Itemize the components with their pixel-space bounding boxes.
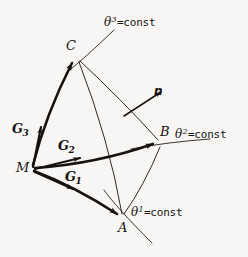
edge-c-to-a [79, 62, 122, 214]
coordinate-label-theta1: θ1=const [131, 206, 182, 218]
vector-label-g1-base: G [65, 169, 76, 184]
vector-label-g2-base: G [58, 138, 69, 153]
coordinate-label-theta3: θ3=const [104, 16, 155, 28]
vector-label-g2-index: 2 [69, 145, 75, 155]
theta3-superscript: 3 [112, 15, 117, 24]
vector-label-g1-index: 1 [76, 176, 82, 186]
theta1-symbol: θ [131, 205, 138, 219]
edge-a-to-b [124, 147, 160, 214]
coordinate-label-theta2: θ2=const [175, 128, 226, 140]
theta1-superscript: 1 [139, 205, 144, 214]
point-label-m: M [16, 161, 29, 174]
vector-label-g1: G1 [65, 170, 82, 186]
theta3-equals-const: =const [117, 16, 156, 29]
edge-c-to-b [80, 61, 158, 140]
theta3-symbol: θ [104, 15, 111, 29]
theta2-superscript: 2 [183, 127, 188, 136]
vector-label-n: n [154, 85, 163, 97]
vector-label-g3-base: G [12, 121, 23, 136]
vector-g3 [33, 127, 41, 167]
vector-label-g3-index: 3 [23, 128, 29, 138]
vector-label-g3: G3 [12, 122, 29, 138]
point-label-b: B [160, 125, 170, 138]
theta2-equals-const: =const [188, 128, 227, 141]
theta1-equals-const: =const [144, 206, 183, 219]
figure-canvas: M A B C G3 G2 G1 n θ3=const θ2=const θ1=… [0, 0, 248, 257]
theta2-symbol: θ [175, 127, 182, 141]
point-label-c: C [66, 39, 76, 52]
vector-label-g2: G2 [58, 139, 75, 155]
point-label-a: A [118, 221, 127, 234]
